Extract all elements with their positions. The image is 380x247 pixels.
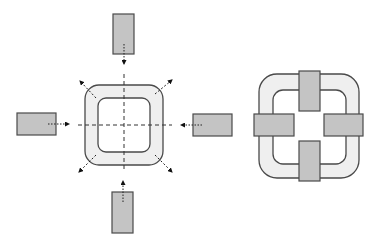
block-left xyxy=(254,114,294,136)
diagram-canvas xyxy=(0,0,380,247)
exploded-view xyxy=(17,14,232,233)
block-right xyxy=(324,114,363,136)
block-top xyxy=(299,71,320,111)
block-bottom xyxy=(299,141,320,181)
assembled-view xyxy=(254,71,363,181)
block-left xyxy=(17,113,56,135)
